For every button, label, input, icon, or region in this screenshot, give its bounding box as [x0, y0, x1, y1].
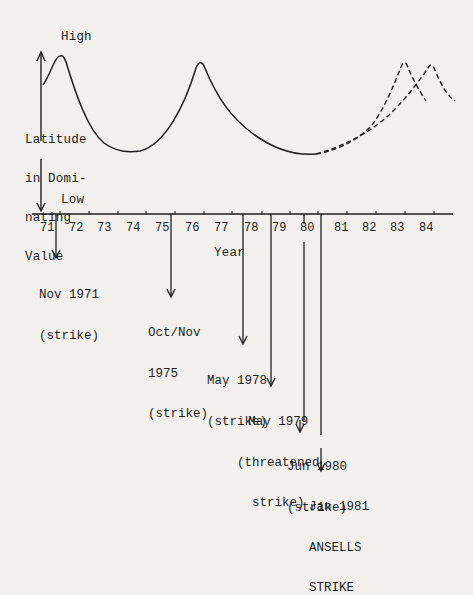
x-tick-label: 81 — [334, 222, 348, 234]
event-label-line: 1975 — [148, 368, 208, 382]
event-label-line: ANSELLS — [309, 542, 369, 556]
x-tick-label: 73 — [97, 222, 111, 234]
event-label-line: Oct/Nov — [148, 327, 208, 341]
x-axis — [32, 211, 453, 214]
x-tick-label: 77 — [214, 222, 228, 234]
x-axis-title: Year — [214, 247, 245, 260]
x-tick-label: 79 — [272, 222, 286, 234]
x-tick-label: 80 — [300, 222, 314, 234]
event-label-octnov-1975: Oct/Nov 1975 (strike) — [148, 300, 208, 449]
y-low-label: Low — [61, 194, 84, 207]
event-label-line: May 1979 — [237, 416, 320, 430]
latitude-curve-projected-a — [316, 63, 426, 154]
event-label-line: STRIKE — [309, 582, 369, 595]
latitude-curve-projected-b — [316, 65, 455, 154]
x-tick-label: 76 — [185, 222, 199, 234]
event-label-line: Jan 1981 — [309, 501, 369, 515]
x-tick-label: 83 — [390, 222, 404, 234]
y-axis-title-line: in Domi- — [25, 173, 87, 186]
event-label-line: Jun 1980 — [287, 461, 347, 475]
x-tick-label: 72 — [69, 222, 83, 234]
x-tick-label: 82 — [362, 222, 376, 234]
event-label-line: Nov 1971 — [39, 289, 99, 303]
y-axis-title-line: Latitude — [25, 134, 87, 147]
x-tick-label: 74 — [126, 222, 140, 234]
x-tick-label: 78 — [244, 222, 258, 234]
x-tick-label: 71 — [40, 222, 54, 234]
y-high-label: High — [61, 31, 92, 44]
event-label-nov-1971: Nov 1971 (strike) — [39, 262, 99, 370]
x-tick-label: 75 — [155, 222, 169, 234]
event-label-line: May 1978 — [207, 375, 267, 389]
x-tick-label: 84 — [419, 222, 433, 234]
event-label-jan-1981: Jan 1981 ANSELLS STRIKE — [309, 474, 369, 595]
event-label-line: (strike) — [148, 408, 208, 422]
event-label-line: (strike) — [39, 330, 99, 344]
